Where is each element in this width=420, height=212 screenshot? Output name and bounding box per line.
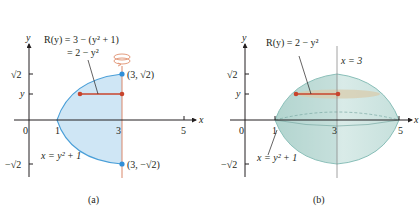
tick-label-sqrt2: √2: [11, 69, 22, 80]
tick-label-0: 0: [23, 125, 28, 136]
radius-label: R(y) = 2 − y²: [266, 37, 319, 49]
point-bottom-label: (3, −√2): [127, 159, 160, 171]
point-top-label: (3, √2): [127, 69, 154, 81]
tick-label-5: 5: [398, 125, 403, 136]
x-axis-label: x: [413, 114, 419, 125]
curve-label: x = y² + 1: [256, 152, 297, 163]
tick-label-3: 3: [116, 125, 121, 136]
caption-b: (b): [313, 194, 325, 206]
tick-label-y: y: [19, 88, 25, 99]
y-axis-label: y: [25, 32, 31, 43]
tick-label-neg-sqrt2: −√2: [5, 159, 21, 170]
panel-b: y x 0 1 3 5 √2 y −√2 R(y) = 2 − y² x = 3…: [221, 32, 419, 206]
radius-label-line2: = 2 − y²: [67, 47, 99, 58]
radius-start-dot: [294, 92, 299, 97]
radius-end-dot: [336, 92, 341, 97]
tick-label-3: 3: [332, 125, 337, 136]
radius-end-dot: [120, 92, 125, 97]
tick-label-neg-sqrt2: −√2: [221, 159, 237, 170]
tick-label-5: 5: [181, 125, 186, 136]
point-bottom-dot: [119, 161, 124, 166]
radius-start-dot: [78, 92, 83, 97]
tick-label-1: 1: [55, 125, 60, 136]
figure: y x 0 1 3 5 √2 y −√2 R(y) = 3 − (y² + 1)…: [0, 0, 420, 212]
tick-label-0: 0: [239, 125, 244, 136]
curve-label: x = y² + 1: [40, 150, 81, 161]
x-axis-label: x: [198, 114, 204, 125]
point-top-dot: [119, 71, 124, 76]
tick-label-sqrt2: √2: [227, 69, 238, 80]
tick-label-1: 1: [272, 125, 277, 136]
tick-label-y: y: [235, 88, 241, 99]
caption-a: (a): [88, 194, 99, 206]
radius-label-line1: R(y) = 3 − (y² + 1): [44, 34, 119, 46]
axis-of-rotation-label: x = 3: [340, 55, 362, 66]
panel-a: y x 0 1 3 5 √2 y −√2 R(y) = 3 − (y² + 1)…: [5, 32, 204, 206]
rotation-arrow-icon: [114, 54, 130, 66]
y-axis-label: y: [241, 32, 247, 43]
solid-left-shade: [275, 74, 337, 164]
